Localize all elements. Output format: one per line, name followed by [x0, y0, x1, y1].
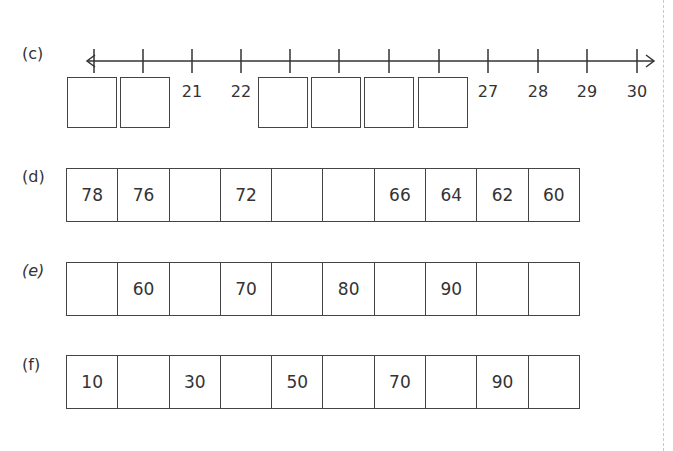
sequence-cell: 66	[375, 169, 426, 221]
sequence-blank-cell[interactable]	[477, 263, 528, 315]
sequence-blank-cell[interactable]	[118, 356, 169, 408]
question-label-d: (d)	[22, 169, 45, 185]
sequence-cell: 10	[67, 356, 118, 408]
sequence-cell: 90	[426, 263, 477, 315]
sequence-cell: 70	[375, 356, 426, 408]
sequence-cell: 78	[67, 169, 118, 221]
sequence-cell: 64	[426, 169, 477, 221]
sequence-blank-cell[interactable]	[323, 169, 374, 221]
sequence-blank-cell[interactable]	[272, 169, 323, 221]
sequence-blank-cell[interactable]	[170, 169, 221, 221]
sequence-cell: 60	[529, 169, 579, 221]
sequence-blank-cell[interactable]	[272, 263, 323, 315]
sequence-cell: 80	[323, 263, 374, 315]
sequence-cell: 30	[170, 356, 221, 408]
sequence-cell: 70	[221, 263, 272, 315]
number-sequence-row-f: 10 30 50 70 90	[66, 355, 580, 409]
sequence-blank-cell[interactable]	[426, 356, 477, 408]
sequence-cell: 90	[477, 356, 528, 408]
sequence-cell: 50	[272, 356, 323, 408]
tick-label-30: 30	[617, 84, 657, 100]
tick-label-27: 27	[468, 84, 508, 100]
tick-label-21: 21	[172, 84, 212, 100]
sequence-blank-cell[interactable]	[375, 263, 426, 315]
tick-label-22: 22	[221, 84, 261, 100]
answer-box-20[interactable]	[120, 77, 170, 128]
tick-label-28: 28	[518, 84, 558, 100]
tick-label-29: 29	[567, 84, 607, 100]
worksheet-page: (c) 21 22 27 28 29	[0, 0, 673, 451]
number-sequence-row-e: 60 70 80 90	[66, 262, 580, 316]
sequence-cell: 60	[118, 263, 169, 315]
answer-box-24[interactable]	[311, 77, 361, 128]
number-line: 21 22 27 28 29 30	[0, 0, 673, 140]
sequence-blank-cell[interactable]	[67, 263, 118, 315]
sequence-blank-cell[interactable]	[529, 356, 579, 408]
answer-box-26[interactable]	[418, 77, 468, 128]
question-label-f: (f)	[22, 357, 40, 373]
sequence-cell: 72	[221, 169, 272, 221]
answer-box-23[interactable]	[258, 77, 308, 128]
sequence-blank-cell[interactable]	[323, 356, 374, 408]
sequence-blank-cell[interactable]	[529, 263, 579, 315]
answer-box-19[interactable]	[67, 77, 117, 128]
sequence-blank-cell[interactable]	[221, 356, 272, 408]
sequence-cell: 62	[477, 169, 528, 221]
number-sequence-row-d: 78 76 72 66 64 62 60	[66, 168, 580, 222]
question-label-e: (e)	[22, 263, 44, 279]
sequence-cell: 76	[118, 169, 169, 221]
sequence-blank-cell[interactable]	[170, 263, 221, 315]
answer-box-25[interactable]	[364, 77, 414, 128]
